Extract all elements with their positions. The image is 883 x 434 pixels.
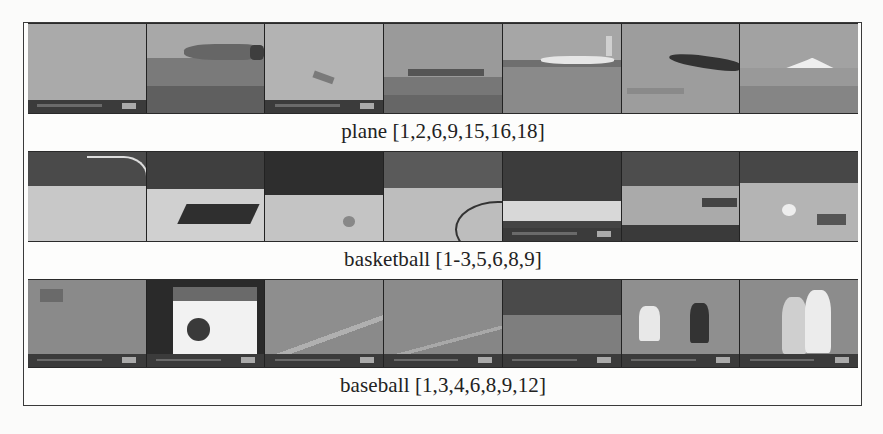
catcher <box>639 306 660 341</box>
frame-plane-5 <box>503 24 622 113</box>
row-caption-basketball: basketball [1-3,5,6,8,9] <box>28 247 858 272</box>
emblem <box>187 318 211 341</box>
row-plane: plane [1,2,6,9,15,16,18] <box>28 23 858 153</box>
frame-baseball-5 <box>503 280 622 367</box>
frame-baseball-2 <box>147 280 266 367</box>
hoop <box>87 156 147 207</box>
broadcast-overlay <box>265 354 383 367</box>
paint-area <box>177 204 259 224</box>
logo-circle <box>343 216 355 227</box>
frame-strip-plane <box>28 23 858 114</box>
frame-basketball-1 <box>28 152 147 241</box>
frame-basketball-6 <box>622 152 741 241</box>
row-caption-baseball: baseball [1,3,4,6,8,9,12] <box>28 373 858 398</box>
frame-baseball-1 <box>28 280 147 367</box>
broadcast-overlay <box>265 100 383 113</box>
broadcast-overlay <box>740 354 858 367</box>
scoreboard <box>702 198 737 207</box>
frame-plane-1 <box>28 24 147 113</box>
player <box>805 290 831 353</box>
broadcast-overlay <box>28 354 146 367</box>
plane-silhouette <box>408 69 485 76</box>
frame-plane-4 <box>384 24 503 113</box>
broadcast-overlay <box>147 354 265 367</box>
batter <box>690 303 709 343</box>
row-basketball: basketball [1-3,5,6,8,9] <box>28 151 858 281</box>
broadcast-overlay <box>622 354 740 367</box>
row-baseball: baseball [1,3,4,6,8,9,12] <box>28 279 858 407</box>
broadcast-overlay <box>384 354 502 367</box>
player <box>782 297 808 354</box>
plane-silhouette <box>785 58 834 69</box>
plane-silhouette <box>541 56 614 64</box>
frame-strip-baseball <box>28 279 858 368</box>
plane-silhouette <box>312 70 334 84</box>
frame-basketball-5 <box>503 152 622 241</box>
frame-plane-6 <box>622 24 741 113</box>
frame-basketball-4 <box>384 152 503 241</box>
frame-strip-basketball <box>28 151 858 242</box>
frame-baseball-7 <box>740 280 858 367</box>
frame-baseball-3 <box>265 280 384 367</box>
row-caption-plane: plane [1,2,6,9,15,16,18] <box>28 119 858 144</box>
court-arc <box>455 201 503 241</box>
broadcast-overlay <box>503 228 621 241</box>
figure-frame: plane [1,2,6,9,15,16,18] <box>23 22 862 406</box>
frame-baseball-4 <box>384 280 503 367</box>
frame-plane-2 <box>147 24 266 113</box>
frame-basketball-7 <box>740 152 858 241</box>
plane-silhouette <box>668 51 740 72</box>
frame-baseball-6 <box>622 280 741 367</box>
frame-plane-7 <box>740 24 858 113</box>
broadcast-overlay <box>503 354 621 367</box>
frame-basketball-2 <box>147 152 266 241</box>
frame-basketball-3 <box>265 152 384 241</box>
frame-plane-3 <box>265 24 384 113</box>
logo-circle <box>782 204 796 216</box>
broadcast-overlay <box>28 100 146 113</box>
